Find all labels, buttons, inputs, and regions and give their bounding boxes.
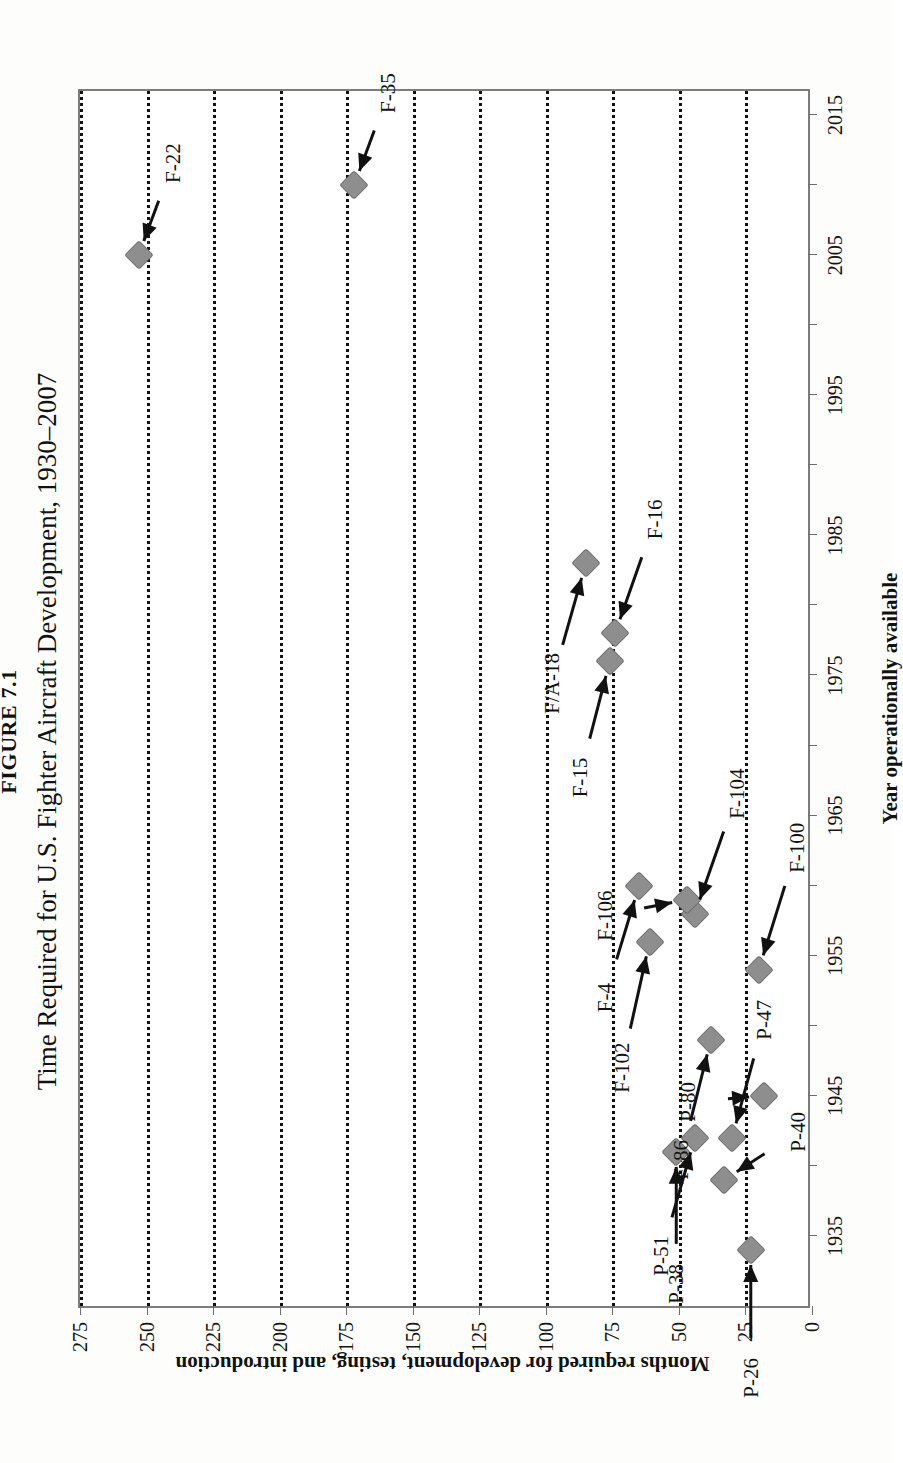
gridline [280, 91, 283, 1306]
y-tick-mark [80, 1306, 81, 1315]
y-tick-label: 100 [534, 1322, 557, 1352]
y-tick-mark [745, 1306, 746, 1315]
x-tick-mark [808, 394, 817, 395]
callout-label: F-15 [567, 758, 592, 798]
gridline [346, 91, 349, 1306]
callout-label: F-16 [643, 500, 668, 540]
y-tick-mark [479, 1306, 480, 1315]
data-point-p-47 [717, 1123, 747, 1153]
gridline [80, 91, 83, 1306]
plot-area: 0255075100125150175200225250275 19351945… [78, 89, 810, 1308]
callout-label: P-40 [786, 1112, 811, 1152]
x-tick-mark [808, 184, 817, 185]
x-tick-mark [808, 885, 817, 886]
x-tick-label: 2005 [824, 235, 847, 275]
data-point-f-35 [339, 170, 369, 200]
x-tick-label: 1955 [824, 936, 847, 976]
callout-label: F-4 [592, 983, 617, 1012]
callout-label: F-35 [376, 73, 401, 113]
x-axis-title: Year operationally available [878, 89, 903, 1308]
y-tick-label: 25 [734, 1322, 757, 1342]
gridline [479, 91, 482, 1306]
data-point-p-80 [749, 1081, 779, 1111]
x-tick-mark [808, 464, 817, 465]
y-axis-title: Months required for development, testing… [73, 1351, 813, 1376]
gridline [745, 91, 748, 1306]
gridline [147, 91, 150, 1306]
y-tick-mark [280, 1306, 281, 1315]
x-tick-mark [808, 534, 817, 535]
y-tick-label: 225 [202, 1322, 225, 1352]
y-tick-label: 0 [801, 1322, 824, 1332]
callout-label: P-47 [752, 1000, 777, 1040]
y-tick-mark [679, 1306, 680, 1315]
y-tick-mark [413, 1306, 414, 1315]
callout-label: F-22 [160, 143, 185, 183]
y-tick-mark [346, 1306, 347, 1315]
data-point-f-16 [600, 619, 630, 649]
x-tick-mark [808, 745, 817, 746]
data-point-p-40 [709, 1165, 739, 1195]
x-tick-mark [808, 955, 817, 956]
gridline [612, 91, 615, 1306]
data-point-f-86 [696, 1025, 726, 1055]
y-tick-label: 125 [468, 1322, 491, 1352]
x-tick-mark [808, 324, 817, 325]
x-tick-mark [808, 1165, 817, 1166]
callout-label: F-86 [668, 1140, 693, 1180]
x-tick-mark [808, 1235, 817, 1236]
x-tick-mark [808, 114, 817, 115]
figure-number: FIGURE 7.1 [0, 0, 22, 1463]
x-tick-label: 1975 [824, 655, 847, 695]
y-tick-mark [546, 1306, 547, 1315]
y-tick-label: 75 [601, 1322, 624, 1342]
y-tick-mark [147, 1306, 148, 1315]
callout-arrow-icon [80, 1305, 81, 1306]
callout-label: F-106 [592, 891, 617, 941]
x-tick-mark [808, 254, 817, 255]
callout-label: F-100 [784, 823, 809, 873]
x-tick-mark [808, 674, 817, 675]
data-point-p-26 [736, 1235, 766, 1265]
x-tick-mark [808, 1025, 817, 1026]
x-tick-label: 1935 [824, 1216, 847, 1256]
y-tick-mark [812, 1306, 813, 1315]
x-tick-mark [808, 1095, 817, 1096]
x-tick-label: 1945 [824, 1076, 847, 1116]
data-point-f-a-18 [571, 549, 601, 579]
y-tick-label: 275 [69, 1322, 92, 1352]
y-tick-label: 150 [401, 1322, 424, 1352]
gridline [413, 91, 416, 1306]
y-tick-label: 50 [667, 1322, 690, 1342]
x-tick-label: 2015 [824, 95, 847, 135]
x-tick-mark [808, 815, 817, 816]
callout-label: F/A-18 [539, 653, 564, 714]
data-point-f-4 [624, 871, 654, 901]
callout-label: P-51 [648, 1236, 673, 1276]
y-tick-mark [213, 1306, 214, 1315]
callout-label: F-102 [609, 1043, 634, 1093]
gridline [213, 91, 216, 1306]
y-tick-label: 175 [335, 1322, 358, 1352]
x-tick-mark [808, 604, 817, 605]
x-tick-label: 1965 [824, 796, 847, 836]
x-tick-label: 1985 [824, 515, 847, 555]
x-tick-label: 1995 [824, 375, 847, 415]
gridline [679, 91, 682, 1306]
y-tick-label: 250 [135, 1322, 158, 1352]
figure-title: Time Required for U.S. Fighter Aircraft … [32, 0, 63, 1463]
y-tick-label: 200 [268, 1322, 291, 1352]
data-point-f-15 [595, 647, 625, 677]
data-point-f-102 [635, 927, 665, 957]
y-tick-mark [612, 1306, 613, 1315]
callout-label: F-104 [724, 769, 749, 819]
